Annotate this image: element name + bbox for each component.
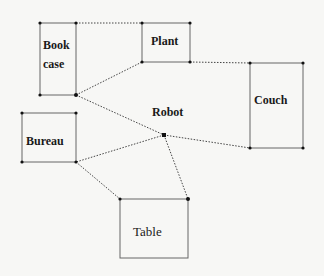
table-label: Table — [133, 222, 162, 241]
edge-bookcase-plant — [76, 62, 142, 95]
plant-label: Plant — [151, 32, 178, 51]
couch-label: Couch — [254, 91, 287, 110]
robot-label: Robot — [152, 103, 183, 122]
edge-plant-couch — [190, 62, 250, 63]
bureau-label: Bureau — [26, 132, 64, 151]
edge-robot-bureau — [76, 135, 164, 162]
edge-bookcase-robot — [76, 95, 164, 135]
edge-bureau-table — [76, 162, 120, 199]
bookcase-label: Book case — [43, 36, 70, 74]
edge-robot-couch — [164, 135, 250, 148]
bookcase-label-line2: case — [43, 55, 70, 74]
bookcase-label-line1: Book — [43, 36, 70, 55]
robot-marker — [162, 133, 166, 137]
edge-robot-table — [164, 135, 188, 199]
